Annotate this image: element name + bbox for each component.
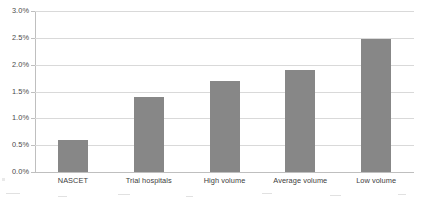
- y-axis-tick-label: 3.0%: [0, 7, 29, 14]
- y-axis-tick-label: 2.5%: [0, 34, 29, 41]
- x-axis-category-label: Trial hospitals: [126, 176, 172, 185]
- y-axis-tick: [31, 172, 35, 173]
- scan-artifact: [58, 196, 67, 197]
- y-axis-tick-label: 0.0%: [0, 168, 29, 175]
- x-axis-category-label: Low volume: [356, 176, 396, 185]
- y-axis-tick-label: 1.0%: [0, 114, 29, 121]
- y-axis-tick-label: 2.0%: [0, 61, 29, 68]
- scan-artifact: [262, 193, 272, 194]
- scan-artifact: [118, 194, 130, 195]
- bar: [210, 81, 240, 172]
- gridline: [35, 172, 414, 173]
- bar: [134, 97, 164, 172]
- x-axis-category-label: High volume: [204, 176, 246, 185]
- bar: [58, 140, 88, 172]
- y-axis-tick-label: 0.5%: [0, 141, 29, 148]
- x-axis-category-label: NASCET: [58, 176, 88, 185]
- bar: [285, 70, 315, 172]
- x-axis-category-label: Average volume: [273, 176, 327, 185]
- plot-area: [35, 11, 414, 172]
- scan-artifact: [398, 194, 406, 195]
- y-axis-tick-label: 1.5%: [0, 88, 29, 95]
- bar: [361, 39, 391, 172]
- bar-chart: 0.0%0.5%1.0%1.5%2.0%2.5%3.0% NASCETTrial…: [0, 0, 421, 200]
- scan-artifact: [6, 193, 20, 194]
- scan-artifact: [330, 195, 341, 196]
- scan-artifact: [186, 196, 193, 197]
- scan-artifact: [2, 178, 5, 181]
